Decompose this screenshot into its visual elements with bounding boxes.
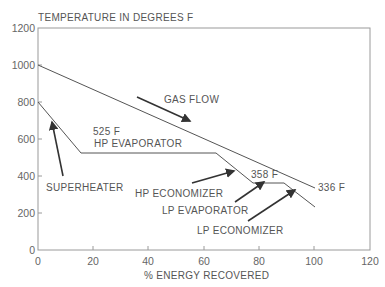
lp-economizer-arrow xyxy=(248,190,295,221)
y-tick-800: 800 xyxy=(17,96,35,108)
x-tick-0: 0 xyxy=(35,255,41,267)
x-axis-title: % ENERGY RECOVERED xyxy=(144,270,269,281)
y-tick-1200: 1200 xyxy=(12,22,36,34)
superheater-label: SUPERHEATER xyxy=(46,182,124,193)
hp-economizer-label: HP ECONOMIZER xyxy=(135,188,223,199)
y-tick-400: 400 xyxy=(17,170,35,182)
temp-336-label: 336 F xyxy=(318,182,345,193)
hp-economizer-arrow xyxy=(192,171,234,183)
annotation-arrows xyxy=(52,97,295,221)
y-tick-1000: 1000 xyxy=(12,59,36,71)
lp-evaporator-label: LP EVAPORATOR xyxy=(162,205,249,216)
temp-525-label: 525 F xyxy=(93,126,120,137)
x-tick-120: 120 xyxy=(361,255,379,267)
x-axis xyxy=(93,246,314,250)
y-tick-600: 600 xyxy=(17,133,35,145)
y-axis xyxy=(38,65,42,213)
y-tick-labels: 0 200 400 600 800 1000 1200 xyxy=(12,22,36,256)
lp-evaporator-arrow xyxy=(235,182,264,202)
hp-evaporator-label: HP EVAPORATOR xyxy=(94,138,182,149)
y-tick-200: 200 xyxy=(17,207,35,219)
x-tick-20: 20 xyxy=(87,255,99,267)
gas-flow-label: GAS FLOW xyxy=(164,94,219,105)
x-tick-100: 100 xyxy=(305,255,323,267)
lp-economizer-label: LP ECONOMIZER xyxy=(197,225,284,236)
temp-358-label: 358 F xyxy=(251,169,278,180)
x-tick-labels: 0 20 40 60 80 100 120 xyxy=(35,255,379,267)
y-axis-title: TEMPERATURE IN DEGREES F xyxy=(38,12,193,23)
x-tick-40: 40 xyxy=(142,255,154,267)
x-tick-80: 80 xyxy=(253,255,265,267)
x-tick-60: 60 xyxy=(198,255,210,267)
temperature-energy-chart: 0 200 400 600 800 1000 1200 0 20 40 60 8… xyxy=(0,0,385,287)
